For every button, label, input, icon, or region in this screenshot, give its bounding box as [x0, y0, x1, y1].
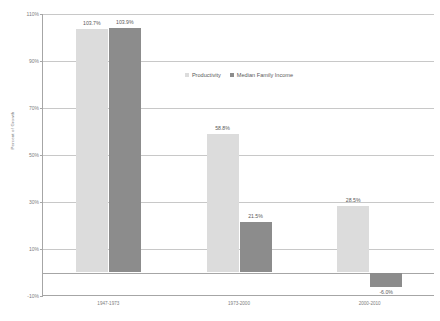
x-axis-tick-label: 1973-2000	[228, 301, 250, 306]
gridline	[43, 14, 434, 15]
y-axis-tick-label: 10%	[29, 246, 39, 252]
bar-value-label: 58.8%	[215, 125, 230, 131]
y-axis-tick-label: 70%	[29, 105, 39, 111]
y-axis-tick-mark	[40, 61, 43, 62]
legend-swatch-icon	[185, 73, 189, 77]
legend-label: Productivity	[192, 72, 221, 78]
bar-value-label: 103.9%	[116, 19, 134, 25]
y-axis-tick-label: 90%	[29, 58, 39, 64]
bar-value-label: 28.5%	[346, 197, 361, 203]
y-axis-tick-mark	[40, 108, 43, 109]
bar	[370, 273, 402, 287]
bar	[76, 29, 108, 273]
y-axis-tick-mark	[40, 249, 43, 250]
y-axis-tick-label: 110%	[27, 11, 39, 17]
legend-swatch-icon	[230, 73, 234, 77]
bar-value-label: 21.5%	[248, 213, 263, 219]
bar	[240, 222, 272, 273]
bar-chart: Percent of Growth 110%90%70%50%30%10%-10…	[0, 0, 440, 321]
plot-area: 110%90%70%50%30%10%-10% 103.7%103.9%58.8…	[42, 14, 434, 296]
legend-label: Median Family Income	[237, 72, 293, 78]
y-axis-tick-label: 30%	[29, 199, 39, 205]
bar	[207, 134, 239, 272]
y-axis-tick-mark	[40, 14, 43, 15]
bar-value-label: 103.7%	[83, 20, 101, 26]
y-axis-tick-mark	[40, 155, 43, 156]
bar	[337, 206, 369, 273]
bar-value-label: -6.0%	[379, 289, 393, 295]
y-axis-tick-mark	[40, 296, 43, 297]
x-axis-tick-label: 1947-1973	[97, 301, 119, 306]
y-axis-tick-label: -10%	[27, 293, 39, 299]
bar	[109, 28, 141, 272]
y-axis-tick-label: 50%	[29, 152, 39, 158]
x-axis-tick-label: 2000-2010	[359, 301, 381, 306]
y-axis-tick-mark	[40, 202, 43, 203]
legend-item[interactable]: Productivity	[185, 72, 221, 78]
chart-legend: ProductivityMedian Family Income	[43, 72, 435, 78]
y-axis-title: Percent of Growth	[10, 91, 15, 171]
legend-item[interactable]: Median Family Income	[230, 72, 293, 78]
